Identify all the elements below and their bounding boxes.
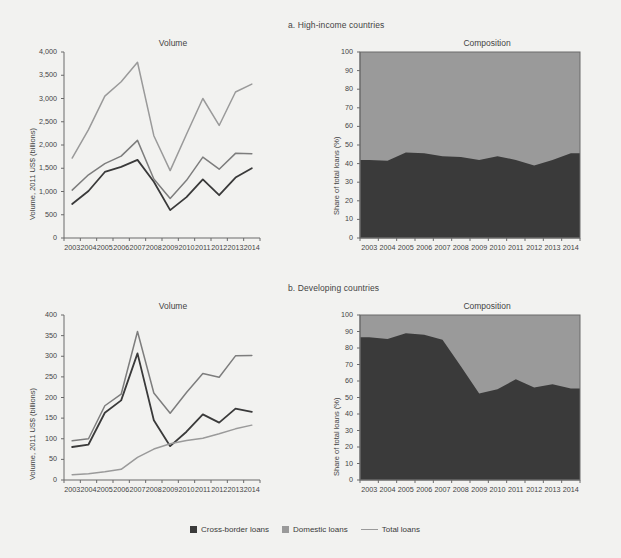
y-tick-label: 60 bbox=[318, 376, 353, 385]
legend-label-domestic: Domestic loans bbox=[293, 525, 348, 534]
y-tick-label: 2,000 bbox=[22, 140, 57, 149]
y-tick-label: 1,500 bbox=[22, 163, 57, 172]
y-tick-label: 80 bbox=[318, 84, 353, 93]
legend-item-cross-border: Cross-border loans bbox=[190, 525, 269, 534]
y-tick-label: 50 bbox=[22, 454, 57, 463]
y-tick-label: 0 bbox=[318, 233, 353, 242]
x-tick-label: 2014 bbox=[557, 485, 585, 494]
y-tick-label: 500 bbox=[22, 210, 57, 219]
legend-item-domestic: Domestic loans bbox=[282, 525, 348, 534]
y-tick-label: 3,000 bbox=[22, 94, 57, 103]
chart-title-b-composition: Composition bbox=[392, 301, 582, 311]
legend-swatch-cross-border bbox=[190, 526, 197, 533]
x-tick-label: 2014 bbox=[238, 243, 266, 252]
y-tick-label: 60 bbox=[318, 121, 353, 130]
y-tick-label: 350 bbox=[22, 331, 57, 340]
y-tick-label: 3,500 bbox=[22, 70, 57, 79]
legend-label-cross-border: Cross-border loans bbox=[201, 525, 269, 534]
y-tick-label: 0 bbox=[318, 475, 353, 484]
legend-swatch-domestic bbox=[282, 526, 289, 533]
y-tick-label: 40 bbox=[318, 159, 353, 168]
panel-b-title: b. Developing countries bbox=[288, 283, 379, 293]
y-tick-label: 70 bbox=[318, 103, 353, 112]
chart-title-a-volume: Volume bbox=[78, 38, 268, 48]
y-tick-label: 0 bbox=[22, 475, 57, 484]
y-tick-label: 20 bbox=[318, 442, 353, 451]
y-tick-label: 50 bbox=[318, 140, 353, 149]
chart-title-a-composition: Composition bbox=[392, 38, 582, 48]
legend-line-total bbox=[361, 529, 378, 530]
chart-title-b-volume: Volume bbox=[78, 301, 268, 311]
y-tick-label: 90 bbox=[318, 327, 353, 336]
legend-label-total: Total loans bbox=[382, 525, 420, 534]
y-tick-label: 2,500 bbox=[22, 117, 57, 126]
y-tick-label: 10 bbox=[318, 214, 353, 223]
y-tick-label: 80 bbox=[318, 343, 353, 352]
y-tick-label: 150 bbox=[22, 413, 57, 422]
panel-a-title: a. High-income countries bbox=[288, 20, 384, 30]
y-tick-label: 4,000 bbox=[22, 47, 57, 56]
y-tick-label: 300 bbox=[22, 351, 57, 360]
legend-item-total: Total loans bbox=[361, 525, 420, 534]
y-tick-label: 70 bbox=[318, 360, 353, 369]
y-tick-label: 0 bbox=[22, 233, 57, 242]
y-tick-label: 10 bbox=[318, 459, 353, 468]
y-tick-label: 200 bbox=[22, 393, 57, 402]
y-tick-label: 30 bbox=[318, 177, 353, 186]
y-tick-label: 30 bbox=[318, 426, 353, 435]
y-tick-label: 100 bbox=[318, 47, 353, 56]
y-tick-label: 100 bbox=[318, 310, 353, 319]
x-tick-label: 2014 bbox=[238, 485, 266, 494]
y-tick-label: 20 bbox=[318, 196, 353, 205]
y-tick-label: 250 bbox=[22, 372, 57, 381]
y-tick-label: 400 bbox=[22, 310, 57, 319]
y-tick-label: 100 bbox=[22, 434, 57, 443]
y-tick-label: 40 bbox=[318, 409, 353, 418]
figure-legend: Cross-border loans Domestic loans Total … bbox=[190, 525, 420, 534]
y-tick-label: 90 bbox=[318, 66, 353, 75]
y-tick-label: 50 bbox=[318, 393, 353, 402]
y-tick-label: 1,000 bbox=[22, 187, 57, 196]
figure-root: a. High-income countries Volume Volume, … bbox=[0, 0, 621, 558]
x-tick-label: 2014 bbox=[557, 243, 585, 252]
